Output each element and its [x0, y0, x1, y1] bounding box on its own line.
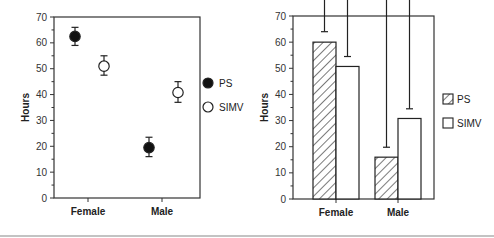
y-tick-label: 50: [275, 63, 287, 74]
y-tick-label: 40: [36, 89, 48, 100]
legend-swatch-ps: [443, 94, 453, 104]
y-tick-label: 0: [280, 194, 286, 205]
y-axis-title: Hours: [20, 93, 31, 122]
x-tick-label: Male: [151, 206, 174, 217]
y-tick-label: 50: [36, 63, 48, 74]
y-tick-label: 40: [275, 89, 287, 100]
y-tick-label: 0: [41, 193, 47, 204]
y-tick-label: 60: [275, 37, 287, 48]
legend-label: PS: [219, 78, 233, 89]
legend-swatch-simv: [443, 118, 453, 128]
scatter-panel: 010203040506070HoursFemaleMalePSSIMV: [20, 12, 244, 218]
data-point-simv: [99, 61, 109, 71]
y-tick-label: 20: [275, 141, 287, 152]
y-tick-label: 30: [275, 115, 287, 126]
data-point-ps: [144, 142, 154, 152]
data-point-ps: [70, 31, 80, 41]
y-tick-label: 10: [36, 167, 48, 178]
legend-marker-ps: [203, 78, 213, 88]
figure: 010203040506070HoursFemaleMalePSSIMV 010…: [0, 0, 494, 238]
bar-ps: [313, 42, 336, 199]
x-tick-label: Female: [71, 206, 106, 217]
legend-label: SIMV: [219, 102, 244, 113]
y-axis-title: Hours: [259, 93, 270, 122]
bar-ps: [375, 157, 398, 199]
bar-panel: 010203040506070HoursFemaleMalePSSIMV: [259, 0, 482, 218]
y-tick-label: 20: [36, 141, 48, 152]
legend-label: SIMV: [457, 118, 482, 129]
y-tick-label: 10: [275, 167, 287, 178]
y-tick-label: 60: [36, 37, 48, 48]
bar-simv: [336, 66, 359, 199]
legend-label: PS: [457, 94, 471, 105]
legend-marker-simv: [203, 102, 213, 112]
data-point-simv: [173, 87, 183, 97]
plot-frame: [54, 17, 200, 198]
y-tick-label: 70: [275, 11, 287, 22]
y-tick-label: 70: [36, 12, 48, 23]
bar-simv: [398, 118, 421, 199]
x-tick-label: Female: [319, 207, 354, 218]
x-tick-label: Male: [387, 207, 410, 218]
y-tick-label: 30: [36, 115, 48, 126]
